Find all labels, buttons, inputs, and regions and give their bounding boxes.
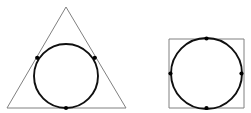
square-incircle xyxy=(171,38,242,109)
triangle-incircle xyxy=(34,44,98,108)
geometry-diagram xyxy=(0,0,251,113)
tangent-point-left-side xyxy=(35,56,39,60)
figures-canvas xyxy=(0,0,251,113)
square-figure xyxy=(168,36,244,110)
tangent-point-left xyxy=(168,71,172,75)
tangent-point-right xyxy=(239,71,243,75)
tangent-point-top xyxy=(204,36,208,40)
tangent-point-base xyxy=(64,106,68,110)
tangent-point-bottom xyxy=(204,106,208,110)
triangle-figure xyxy=(7,7,126,110)
tangent-point-right-side xyxy=(93,56,97,60)
triangle-outline xyxy=(7,7,126,108)
